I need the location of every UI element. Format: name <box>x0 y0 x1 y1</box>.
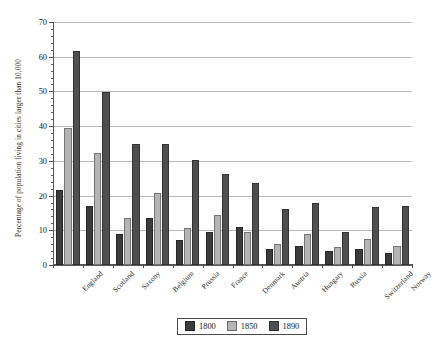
y-tick-minor <box>51 71 54 72</box>
bar-austria-1800 <box>266 249 273 265</box>
x-tick <box>382 264 383 268</box>
x-tick <box>53 264 54 268</box>
y-tick-minor <box>51 203 54 204</box>
y-tick-minor <box>51 175 54 176</box>
x-tick <box>173 264 174 268</box>
y-tick-minor <box>51 237 54 238</box>
legend-swatch-icon <box>185 321 195 331</box>
y-tick-minor <box>51 216 54 217</box>
x-axis-label-england: England <box>80 269 104 293</box>
legend-label: 1800 <box>199 322 216 331</box>
y-tick-minor <box>51 251 54 252</box>
bar-england-1850 <box>64 128 71 265</box>
y-tick-minor <box>51 133 54 134</box>
bar-austria-1850 <box>274 244 281 265</box>
x-axis-label-austria: Austria <box>289 269 311 291</box>
y-tick-minor <box>51 182 54 183</box>
y-tick-minor <box>51 140 54 141</box>
chart-figure: Percentage of population living in citie… <box>0 0 445 349</box>
bar-scotland-1800 <box>86 206 93 265</box>
y-tick-minor <box>51 105 54 106</box>
y-tick-label: 40 <box>39 122 47 131</box>
legend-item-1850[interactable]: 1850 <box>227 321 258 331</box>
bar-prussia-1890 <box>192 160 199 265</box>
x-axis-label-prussia: Prussia <box>199 269 221 291</box>
bar-group <box>56 22 80 265</box>
y-tick-label: 50 <box>39 87 47 96</box>
bar-england-1890 <box>73 51 80 265</box>
y-tick-major <box>49 161 54 162</box>
bar-group <box>266 22 290 265</box>
x-axis-label-saxony: Saxony <box>139 269 161 291</box>
y-tick-major <box>49 22 54 23</box>
y-tick-minor <box>51 119 54 120</box>
chart-legend: 180018501890 <box>177 318 307 335</box>
y-tick-minor <box>51 50 54 51</box>
bar-denmark-1850 <box>244 232 251 265</box>
y-tick-label: 60 <box>39 52 47 61</box>
bar-switzerland-1800 <box>355 249 362 265</box>
y-tick-major <box>49 230 54 231</box>
bar-group <box>116 22 140 265</box>
y-tick-minor <box>51 98 54 99</box>
y-tick-minor <box>51 154 54 155</box>
bar-belgium-1800 <box>146 218 153 265</box>
x-axis-label-russia: Russia <box>348 269 369 290</box>
bar-denmark-1800 <box>236 227 243 265</box>
x-axis-label-hungary: Hungary <box>320 269 345 294</box>
y-tick-minor <box>51 29 54 30</box>
y-tick-minor <box>51 78 54 79</box>
y-tick-minor <box>51 112 54 113</box>
y-tick-minor <box>51 43 54 44</box>
bar-group <box>86 22 110 265</box>
legend-item-1800[interactable]: 1800 <box>185 321 216 331</box>
bar-france-1800 <box>206 232 213 265</box>
y-tick-label: 30 <box>39 156 47 165</box>
x-tick <box>292 264 293 268</box>
bar-belgium-1850 <box>154 193 161 265</box>
legend-swatch-icon <box>227 321 237 331</box>
bar-group <box>385 22 409 265</box>
y-tick-minor <box>51 147 54 148</box>
legend-item-1890[interactable]: 1890 <box>269 321 300 331</box>
x-axis-label-denmark: Denmark <box>261 269 287 295</box>
legend-label: 1890 <box>283 322 300 331</box>
x-tick <box>352 264 353 268</box>
y-tick-minor <box>51 168 54 169</box>
y-tick-minor <box>51 36 54 37</box>
y-tick-label: 20 <box>39 191 47 200</box>
legend-swatch-icon <box>269 321 279 331</box>
bar-norway-1890 <box>402 206 409 265</box>
bar-group <box>236 22 260 265</box>
y-tick-minor <box>51 223 54 224</box>
y-tick-minor <box>51 209 54 210</box>
y-tick-label: 70 <box>39 18 47 27</box>
bar-hungary-1850 <box>304 234 311 265</box>
bar-russia-1850 <box>334 247 341 265</box>
y-tick-minor <box>51 64 54 65</box>
plot-area: 010203040506070 <box>53 22 412 265</box>
x-tick <box>83 264 84 268</box>
y-tick-major <box>49 91 54 92</box>
bar-russia-1890 <box>342 232 349 265</box>
x-tick <box>412 264 413 268</box>
bar-england-1800 <box>56 190 63 265</box>
y-tick-minor <box>51 189 54 190</box>
bar-group <box>146 22 170 265</box>
bar-denmark-1890 <box>252 183 259 265</box>
y-tick-major <box>49 126 54 127</box>
y-axis-title: Percentage of population living in citie… <box>15 23 23 273</box>
bar-prussia-1850 <box>184 228 191 265</box>
bar-scotland-1850 <box>94 153 101 265</box>
bar-austria-1890 <box>282 209 289 265</box>
x-tick <box>262 264 263 268</box>
bar-saxony-1800 <box>116 234 123 265</box>
x-tick <box>203 264 204 268</box>
x-tick <box>233 264 234 268</box>
x-tick <box>143 264 144 268</box>
bar-saxony-1890 <box>132 144 139 265</box>
y-tick-label: 10 <box>39 226 47 235</box>
x-tick <box>322 264 323 268</box>
bar-group <box>325 22 349 265</box>
bar-hungary-1800 <box>295 246 302 265</box>
